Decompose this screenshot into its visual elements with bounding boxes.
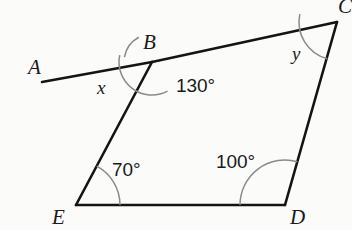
angle-arc-y	[299, 14, 327, 59]
vertex-label-c: C	[338, 0, 352, 17]
angle-label-angle-B: 130°	[176, 76, 215, 95]
vertex-label-d: D	[290, 207, 305, 228]
angle-label-x: x	[97, 78, 105, 97]
angle-arc-x	[124, 37, 138, 57]
angle-label-angle-D: 100°	[216, 152, 255, 171]
vertex-label-e: E	[52, 207, 65, 228]
vertex-label-a: A	[28, 57, 41, 78]
segment-B-to-C	[152, 22, 337, 62]
angle-label-angle-E: 70°	[112, 160, 140, 179]
angle-label-y: y	[292, 44, 300, 63]
vertex-label-b: B	[143, 32, 156, 53]
